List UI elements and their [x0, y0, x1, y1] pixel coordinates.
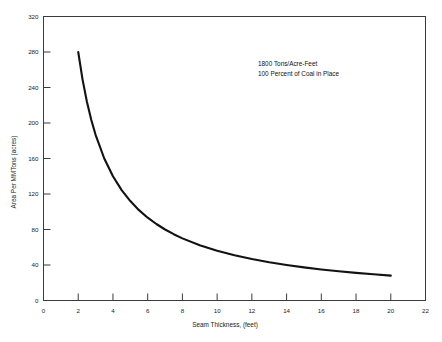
x-tick-label: 0: [42, 307, 46, 314]
x-tick-label: 8: [181, 307, 185, 314]
y-tick-label: 120: [28, 190, 39, 197]
x-tick-label: 18: [353, 307, 360, 314]
x-tick-label: 6: [146, 307, 150, 314]
annotation-line-2: 100 Percent of Coal in Place: [258, 70, 339, 77]
y-tick-label: 320: [28, 13, 39, 20]
figure-background: [0, 0, 442, 342]
x-tick-label: 10: [214, 307, 221, 314]
chart-figure: 04080120160200240280320 0246810121416182…: [0, 0, 442, 342]
y-tick-label: 160: [28, 155, 39, 162]
y-tick-label: 80: [32, 226, 39, 233]
y-tick-label: 200: [28, 119, 39, 126]
x-tick-label: 12: [248, 307, 255, 314]
x-tick-label: 4: [111, 307, 115, 314]
x-tick-label: 14: [283, 307, 290, 314]
y-tick-label: 0: [35, 297, 39, 304]
x-axis-title: Seam Thickness, (feet): [192, 321, 258, 329]
y-tick-label: 280: [28, 48, 39, 55]
y-tick-label: 40: [32, 261, 39, 268]
x-tick-label: 16: [318, 307, 325, 314]
x-tick-label: 2: [77, 307, 81, 314]
x-tick-label: 22: [422, 307, 429, 314]
y-axis-title: Area Per MMTons (acres): [10, 136, 18, 209]
x-tick-label: 20: [387, 307, 394, 314]
annotation-line-1: 1800 Tons/Acre-Feet: [258, 60, 317, 67]
y-tick-label: 240: [28, 84, 39, 91]
